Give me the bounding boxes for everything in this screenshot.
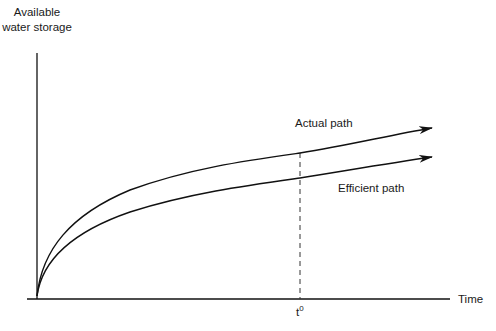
y-axis-label-line1: Available — [14, 6, 60, 18]
actual-path-curve — [37, 128, 432, 296]
efficient-path-label: Efficient path — [338, 182, 404, 194]
efficient-path-curve — [37, 157, 432, 296]
x-axis-label: Time — [458, 293, 483, 305]
diagram: Available water storage Time t0 Actual p… — [0, 0, 496, 331]
actual-path-label: Actual path — [295, 117, 353, 129]
y-axis-label-line2: water storage — [1, 21, 72, 33]
t0-tick-label: t0 — [296, 304, 304, 318]
